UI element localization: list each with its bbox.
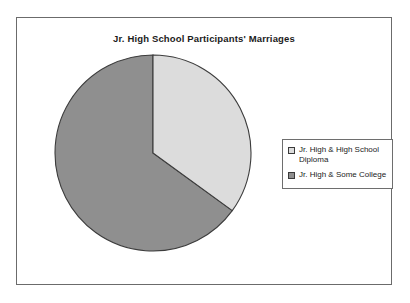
chart-frame: Jr. High School Participants' Marriages …: [16, 17, 392, 285]
chart-legend: Jr. High & High School Diploma Jr. High …: [282, 139, 393, 189]
screenshot-root: Jr. High School Participants' Marriages …: [0, 0, 410, 303]
legend-swatch-some-college-icon: [288, 172, 295, 179]
legend-item-diploma[interactable]: Jr. High & High School Diploma: [288, 145, 388, 165]
legend-label-diploma: Jr. High & High School Diploma: [299, 145, 379, 165]
chart-title: Jr. High School Participants' Marriages: [17, 33, 391, 44]
legend-item-some-college[interactable]: Jr. High & Some College: [288, 170, 388, 180]
legend-swatch-diploma-icon: [288, 147, 295, 154]
pie-chart-svg: [54, 54, 252, 252]
pie-chart-area: [54, 54, 252, 252]
legend-label-some-college: Jr. High & Some College: [299, 170, 386, 180]
